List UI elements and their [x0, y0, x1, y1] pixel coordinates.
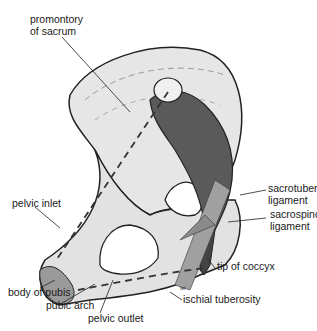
label-sacrospinous: sacrospinous ligament: [270, 208, 317, 232]
pelvis-illustration: [0, 0, 317, 331]
artist-mark: tel: [180, 285, 185, 291]
label-pelvic-outlet: pelvic outlet: [88, 312, 143, 324]
label-body-of-pubis: body of pubis: [8, 286, 70, 298]
label-tip-of-coccyx: tip of coccyx: [217, 260, 275, 272]
label-pubic-arch: pubic arch: [46, 299, 94, 311]
label-promontory: promontory of sacrum: [30, 13, 83, 37]
label-ischial-tuberosity: ischial tuberosity: [183, 293, 261, 305]
label-sacrotuberous: sacrotuberous ligament: [268, 182, 317, 206]
label-pelvic-inlet: pelvic inlet: [12, 197, 61, 209]
